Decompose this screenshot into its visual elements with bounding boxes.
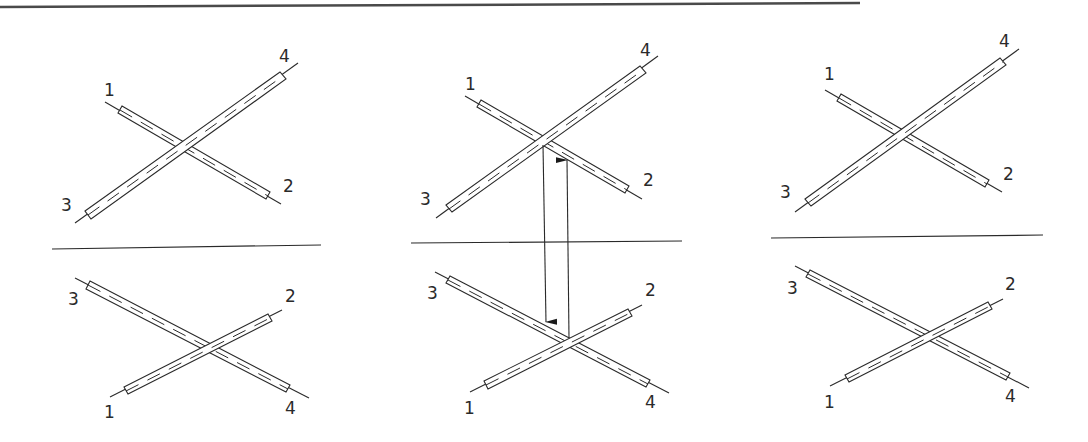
label-3: 3 <box>68 289 79 309</box>
up-arrow-icon <box>567 160 569 338</box>
panel-middle-bottom: 3 2 1 4 <box>427 272 669 418</box>
label-2: 2 <box>645 280 656 300</box>
label-4: 4 <box>640 40 651 60</box>
rod-1-2 <box>470 305 642 392</box>
label-1: 1 <box>464 398 475 418</box>
label-4: 4 <box>999 31 1010 51</box>
panel-middle: 1 4 2 3 3 2 1 4 <box>411 40 682 418</box>
top-border-line <box>0 3 860 7</box>
rod-1-2 <box>830 299 1003 386</box>
reference-line-middle <box>411 241 682 243</box>
label-1: 1 <box>824 64 835 84</box>
label-2: 2 <box>283 176 294 196</box>
label-3: 3 <box>780 182 791 202</box>
panel-middle-top: 1 4 2 3 <box>420 40 658 218</box>
label-3: 3 <box>427 283 438 303</box>
panel-right: 1 4 2 3 3 2 1 4 <box>771 31 1043 412</box>
label-4: 4 <box>285 398 296 418</box>
label-1: 1 <box>465 74 476 94</box>
label-4: 4 <box>279 46 290 66</box>
rod-3-4 <box>435 272 669 393</box>
panel-left: 1 4 2 3 3 2 1 4 <box>52 46 321 422</box>
label-4: 4 <box>645 392 656 412</box>
label-1: 1 <box>104 80 115 100</box>
label-3: 3 <box>420 189 431 209</box>
down-arrow-icon <box>543 145 546 322</box>
label-3: 3 <box>61 195 72 215</box>
rod-3-4 <box>75 278 309 398</box>
rod-3-4 <box>795 266 1029 388</box>
panel-right-bottom: 3 2 1 4 <box>787 266 1029 412</box>
label-2: 2 <box>1003 164 1014 184</box>
label-2: 2 <box>1005 274 1016 294</box>
label-1: 1 <box>104 402 115 422</box>
panel-left-bottom: 3 2 1 4 <box>68 278 309 422</box>
reference-line-left <box>52 245 321 249</box>
panel-left-top: 1 4 2 3 <box>61 46 298 223</box>
rod-1-2 <box>110 310 282 397</box>
label-2: 2 <box>643 170 654 190</box>
panel-right-top: 1 4 2 3 <box>780 31 1019 212</box>
reference-line-right <box>771 235 1043 238</box>
crossed-rods-diagram: 1 4 2 3 3 2 1 4 <box>0 0 1088 442</box>
label-2: 2 <box>285 286 296 306</box>
label-1: 1 <box>824 392 835 412</box>
label-3: 3 <box>787 278 798 298</box>
label-4: 4 <box>1005 386 1016 406</box>
